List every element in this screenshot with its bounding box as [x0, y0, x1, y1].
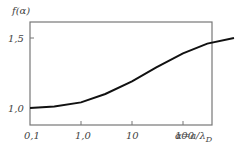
x-tick-label: 1,0 [75, 130, 92, 141]
y-axis-label: f(α) [11, 5, 30, 16]
x-tick-label: 0,1 [24, 130, 40, 141]
chart: f(α) 1,01,5 0,11,010100 α=a/λD [0, 0, 244, 147]
plot-frame [30, 22, 212, 125]
tick-marks [30, 38, 183, 125]
x-axis-label: α=a/λD [175, 130, 213, 144]
data-line [30, 38, 234, 108]
y-tick-label: 1,0 [8, 103, 25, 114]
x-tick-label: 10 [126, 130, 139, 141]
y-tick-label: 1,5 [8, 33, 24, 44]
